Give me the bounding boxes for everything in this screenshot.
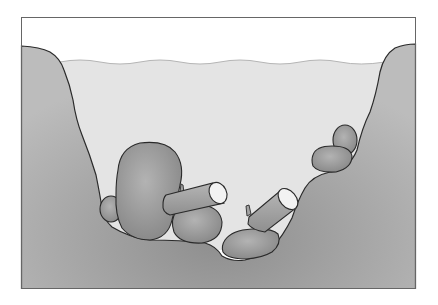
- diagram-canvas: [0, 0, 438, 305]
- stream-cross-section-diagram: [0, 0, 438, 305]
- rock-right-lower: [312, 146, 352, 172]
